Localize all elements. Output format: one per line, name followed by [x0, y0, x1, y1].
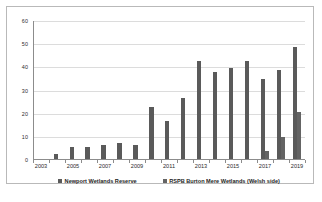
bar: [213, 72, 217, 159]
bar: [117, 143, 121, 159]
bar-group: [82, 21, 98, 159]
bar-group: [273, 21, 289, 159]
bar: [265, 151, 269, 159]
bar: [165, 121, 169, 159]
x-tick-label: 2017: [259, 163, 271, 169]
bar: [245, 61, 249, 159]
bar: [197, 61, 201, 159]
legend-label: Newport Wetlands Reserve: [65, 178, 137, 184]
bar-group: [162, 21, 178, 159]
x-tick-label: 2005: [67, 163, 79, 169]
bar: [70, 147, 74, 159]
x-axis-tick-labels: 200320052007200920112013201520172019: [33, 163, 305, 173]
y-axis-tick-labels: 0102030405060: [0, 21, 31, 160]
x-tick-label: 2019: [291, 163, 303, 169]
bar: [261, 79, 265, 159]
bar-group: [130, 21, 146, 159]
y-tick-label: 40: [22, 64, 28, 70]
y-tick-label: 30: [22, 88, 28, 94]
bar-group: [241, 21, 257, 159]
bar-group: [177, 21, 193, 159]
x-tick-label: 2015: [227, 163, 239, 169]
legend-item[interactable]: Newport Wetlands Reserve: [58, 178, 137, 184]
y-tick-label: 60: [22, 18, 28, 24]
bar-group: [146, 21, 162, 159]
legend-swatch-icon: [163, 179, 167, 183]
bar-series-container: [34, 21, 305, 159]
y-tick-label: 0: [25, 157, 28, 163]
bar: [133, 145, 137, 159]
bar: [297, 112, 301, 159]
bar: [181, 98, 185, 159]
chart-figure: Numbers of pairs 0102030405060 200320052…: [0, 0, 322, 202]
legend-item[interactable]: RSPB Burton Mere Wetlands (Welsh side): [163, 178, 280, 184]
bar-group: [209, 21, 225, 159]
x-tick-label: 2007: [99, 163, 111, 169]
x-tick-label: 2009: [131, 163, 143, 169]
bar: [149, 107, 153, 159]
y-tick-label: 50: [22, 41, 28, 47]
bar: [85, 147, 89, 159]
bar-group: [193, 21, 209, 159]
x-tick-label: 2011: [163, 163, 175, 169]
bar-group: [114, 21, 130, 159]
x-tick-label: 2013: [195, 163, 207, 169]
bar-group: [257, 21, 273, 159]
y-tick-label: 10: [22, 134, 28, 140]
chart-legend: Newport Wetlands ReserveRSPB Burton Mere…: [33, 176, 305, 186]
x-tick-label: 2003: [35, 163, 47, 169]
legend-swatch-icon: [58, 179, 62, 183]
bar: [229, 68, 233, 160]
legend-label: RSPB Burton Mere Wetlands (Welsh side): [169, 178, 280, 184]
y-tick-label: 20: [22, 111, 28, 117]
bar-group: [34, 21, 50, 159]
bar-group: [66, 21, 82, 159]
plot-area: [33, 21, 305, 160]
bar-group: [98, 21, 114, 159]
bar-group: [289, 21, 305, 159]
bar: [281, 137, 285, 159]
bar-group: [225, 21, 241, 159]
x-tick: [305, 160, 306, 163]
bar-group: [50, 21, 66, 159]
bar: [101, 145, 105, 159]
bar: [54, 154, 58, 159]
